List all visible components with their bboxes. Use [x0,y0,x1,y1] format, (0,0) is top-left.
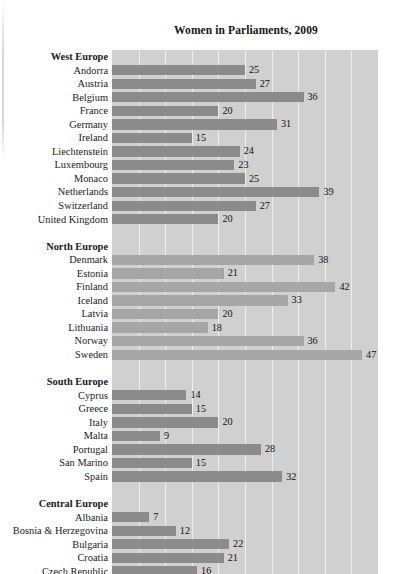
plot-cell: 27 [112,199,378,213]
group-spacer [0,226,396,240]
bar-category-label: Greece [0,402,110,416]
bar-category-label: Norway [0,334,110,348]
bar-row: Netherlands39 [0,185,396,199]
gridlines [112,226,378,240]
plot-cell: 9 [112,429,378,443]
group-header-label: North Europe [0,240,110,254]
plot-cell: 38 [112,253,378,267]
plot-cell: 36 [112,91,378,105]
bar-row: Portugal28 [0,443,396,457]
bar-value-label: 36 [308,334,318,348]
plot-cell: 15 [112,131,378,145]
gridlines [112,240,378,254]
group-header-row: West Europe [0,50,396,64]
bar [112,471,282,481]
plot-cell: 16 [112,565,378,574]
bar-value-label: 25 [249,172,259,186]
bar-value-label: 39 [323,185,333,199]
bar-category-label: Italy [0,416,110,430]
bar-value-label: 18 [212,321,222,335]
bar [112,539,229,549]
plot-cell [112,240,378,254]
plot-cell: 22 [112,538,378,552]
bar [112,526,176,536]
bar-category-label: Austria [0,77,110,91]
plot-cell [112,50,378,64]
bar-row: Albania7 [0,511,396,525]
gridlines [112,511,378,525]
bar-value-label: 20 [222,104,232,118]
bar [112,458,192,468]
bar-category-label: Iceland [0,294,110,308]
bar [112,187,319,197]
plot-cell: 20 [112,104,378,118]
bar-row: Denmark38 [0,253,396,267]
bar-row: Malta9 [0,429,396,443]
bar-value-label: 12 [180,524,190,538]
bar [112,133,192,143]
bar-category-label: Malta [0,429,110,443]
plot-cell [112,226,378,240]
bar [112,404,192,414]
bar-value-label: 25 [249,63,259,77]
bar-row: Sweden47 [0,348,396,362]
bar-row: Croatia21 [0,551,396,565]
bar [112,214,218,224]
bar [112,79,256,89]
bar-category-label: Bosnia & Herzegovina [0,524,110,538]
bar-category-label: Switzerland [0,199,110,213]
bar [112,350,362,360]
plot-cell: 12 [112,524,378,538]
bar-value-label: 15 [196,456,206,470]
plot-cell: 27 [112,77,378,91]
bar-value-label: 27 [260,199,270,213]
bar-category-label: Lithuania [0,321,110,335]
gridlines [112,484,378,498]
bar-row: Bulgaria22 [0,538,396,552]
bar [112,92,304,102]
bar-category-label: Czech Republic [0,565,110,574]
bar-row: France20 [0,104,396,118]
bar-value-label: 24 [244,144,254,158]
bar-category-label: Germany [0,118,110,132]
bar [112,146,240,156]
plot-cell: 47 [112,348,378,362]
bar-value-label: 32 [286,470,296,484]
plot-cell: 42 [112,280,378,294]
plot-cell: 32 [112,470,378,484]
bar-value-label: 23 [238,158,248,172]
gridlines [112,50,378,64]
bar [112,201,256,211]
bar-category-label: Monaco [0,172,110,186]
bar-category-label: Estonia [0,267,110,281]
bar-row: San Marino15 [0,456,396,470]
bar-row: Switzerland27 [0,199,396,213]
group-header-label: Central Europe [0,497,110,511]
bar-row: Liechtenstein24 [0,145,396,159]
bar-category-label: Denmark [0,253,110,267]
plot-cell: 21 [112,551,378,565]
bar-value-label: 33 [292,293,302,307]
bar [112,417,218,427]
bar-value-label: 27 [260,77,270,91]
plot-cell: 39 [112,185,378,199]
bar-category-label: Latvia [0,307,110,321]
bar-value-label: 15 [196,131,206,145]
bar-row: Luxembourg23 [0,158,396,172]
bar-value-label: 36 [308,90,318,104]
plot-cell: 33 [112,294,378,308]
plot-cell [112,484,378,498]
bar-row: Finland42 [0,280,396,294]
bar-row: Greece15 [0,402,396,416]
plot-cell: 24 [112,145,378,159]
bar-category-label: Andorra [0,64,110,78]
bar [112,255,314,265]
bar-value-label: 20 [222,307,232,321]
bar-row: United Kingdom20 [0,213,396,227]
bar [112,444,261,454]
group-header-label: South Europe [0,375,110,389]
bar-row: Spain32 [0,470,396,484]
bar-category-label: Albania [0,511,110,525]
bar-value-label: 16 [201,564,211,574]
bar-category-label: Bulgaria [0,538,110,552]
